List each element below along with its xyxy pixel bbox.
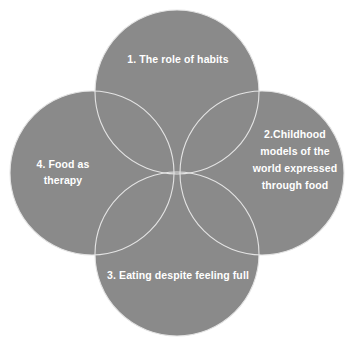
circle-fill-left	[10, 91, 174, 255]
venn-diagram: 1. The role of habits 2.Childhood models…	[0, 0, 355, 345]
venn-circles-graphic	[0, 0, 355, 345]
